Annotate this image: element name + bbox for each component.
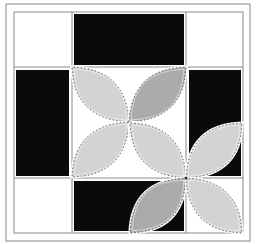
quilt-diagram <box>0 0 257 244</box>
top-middle-block <box>74 14 184 65</box>
middle-left-block <box>16 70 69 176</box>
flower-center <box>184 176 187 179</box>
